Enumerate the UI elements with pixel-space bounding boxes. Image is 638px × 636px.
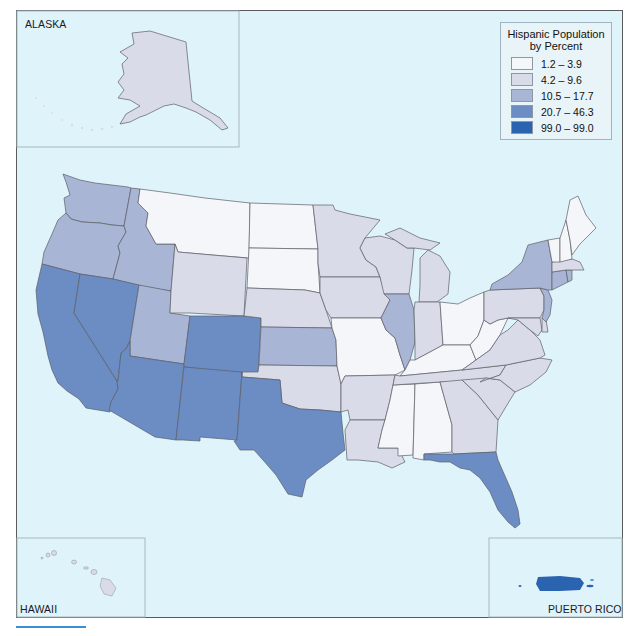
state-maine — [566, 196, 596, 255]
contiguous-states — [36, 174, 596, 528]
caption-rule — [16, 626, 86, 628]
legend-item: 20.7 – 46.3 — [511, 105, 594, 118]
legend-label: 10.5 – 17.7 — [541, 90, 594, 102]
state-kansas — [259, 327, 337, 366]
state-florida — [424, 452, 520, 528]
puerto-rico-label: PUERTO RICO — [548, 603, 622, 615]
legend-item: 4.2 – 9.6 — [511, 73, 582, 86]
state-north-dakota — [249, 203, 318, 249]
legend-label: 99.0 – 99.0 — [541, 122, 594, 134]
map-legend: Hispanic Population by Percent 1.2 – 3.9… — [500, 22, 612, 140]
legend-item: 99.0 – 99.0 — [511, 121, 594, 134]
legend-swatch — [511, 121, 533, 134]
legend-label: 20.7 – 46.3 — [541, 106, 594, 118]
legend-title: Hispanic Population by Percent — [501, 28, 611, 52]
legend-item: 1.2 – 3.9 — [511, 57, 582, 70]
hawaii-label: HAWAII — [20, 603, 57, 615]
state-michigan — [419, 250, 450, 302]
state-washington — [63, 174, 131, 226]
legend-title-line2: by Percent — [501, 40, 611, 52]
alaska-inset — [17, 11, 239, 147]
state-south-dakota — [247, 248, 320, 293]
state-colorado — [184, 316, 261, 376]
legend-label: 1.2 – 3.9 — [541, 58, 582, 70]
territory-puerto-rico — [536, 576, 584, 591]
legend-swatch — [511, 73, 533, 86]
legend-swatch — [511, 57, 533, 70]
state-connecticut — [552, 270, 568, 290]
state-iowa — [320, 277, 390, 318]
state-new-mexico — [176, 367, 242, 441]
legend-title-line1: Hispanic Population — [501, 28, 611, 40]
legend-label: 4.2 – 9.6 — [541, 74, 582, 86]
legend-swatch — [511, 105, 533, 118]
alaska-label: ALASKA — [25, 18, 66, 30]
legend-item: 10.5 – 17.7 — [511, 89, 594, 102]
legend-swatch — [511, 89, 533, 102]
state-new-york — [490, 240, 552, 290]
